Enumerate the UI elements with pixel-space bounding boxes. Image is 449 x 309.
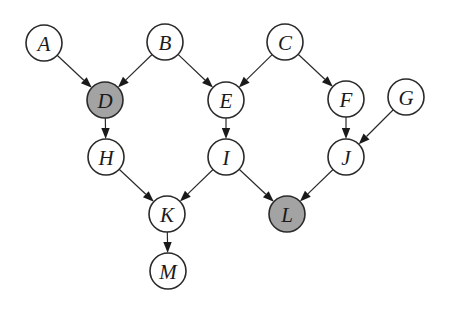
edge-b-to-e: [178, 54, 213, 87]
node-label: H: [97, 146, 115, 170]
edge-k-to-m: [163, 232, 171, 253]
edge-line: [308, 170, 333, 194]
node-m: M: [150, 253, 186, 289]
arrowhead-icon: [163, 242, 171, 253]
node-c: C: [267, 24, 303, 60]
edge-e-to-i: [222, 118, 230, 139]
arrowhead-icon: [101, 128, 109, 139]
node-i: I: [208, 139, 244, 175]
node-label: C: [278, 31, 293, 55]
nodes-layer: ABCDEFGHIJKLM: [26, 24, 424, 289]
edge-d-to-h: [101, 118, 109, 139]
edge-line: [188, 170, 213, 194]
edge-c-to-e: [239, 55, 272, 88]
node-k: K: [149, 196, 185, 232]
node-l: L: [269, 196, 305, 232]
edge-f-to-j: [342, 117, 350, 139]
node-label: K: [159, 203, 175, 227]
edge-line: [119, 169, 146, 194]
node-f: F: [328, 81, 364, 117]
arrowhead-icon: [222, 128, 230, 139]
node-label: M: [158, 260, 178, 284]
edge-b-to-d: [118, 55, 152, 88]
edge-i-to-k: [180, 170, 213, 202]
node-label: L: [280, 203, 293, 227]
edge-line: [247, 55, 272, 80]
node-g: G: [388, 79, 424, 115]
edge-line: [126, 55, 152, 80]
edge-line: [239, 169, 266, 194]
dag-diagram: ABCDEFGHIJKLM: [0, 0, 449, 309]
edge-line: [178, 54, 205, 80]
edge-g-to-j: [359, 110, 394, 145]
edge-h-to-k: [119, 169, 154, 201]
node-j: J: [328, 139, 364, 175]
node-label: F: [339, 88, 353, 112]
node-h: H: [88, 139, 124, 175]
node-label: I: [222, 146, 231, 170]
edge-a-to-d: [57, 55, 92, 87]
node-a: A: [26, 25, 62, 61]
node-label: E: [219, 89, 233, 113]
edge-j-to-l: [300, 170, 333, 202]
edge-c-to-f: [298, 54, 333, 86]
node-label: B: [159, 31, 172, 55]
edge-i-to-l: [239, 169, 274, 201]
node-label: A: [36, 32, 51, 56]
node-label: D: [96, 89, 112, 113]
node-b: B: [147, 24, 183, 60]
edge-line: [367, 110, 394, 137]
edge-line: [57, 55, 84, 80]
arrowhead-icon: [342, 128, 350, 139]
node-label: G: [398, 86, 413, 110]
node-e: E: [208, 82, 244, 118]
node-d: D: [87, 82, 123, 118]
edge-line: [298, 54, 325, 79]
